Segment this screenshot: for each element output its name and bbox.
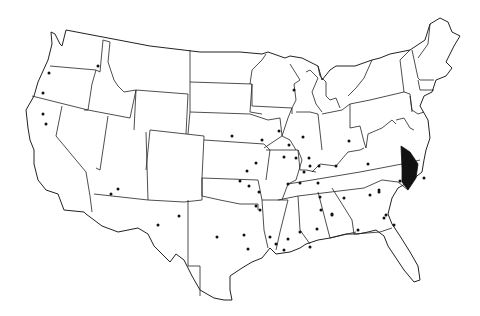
location-dot (243, 234, 246, 237)
location-dot (287, 183, 290, 186)
location-dot (385, 214, 388, 217)
location-dot (287, 238, 290, 241)
location-dot (308, 157, 311, 160)
location-dot (295, 157, 298, 160)
location-dot (318, 165, 321, 168)
location-dot (42, 92, 45, 95)
us-map-svg (0, 0, 480, 316)
location-dot (393, 224, 396, 227)
location-dot (309, 165, 312, 168)
location-dot (178, 215, 181, 218)
location-dot (335, 165, 338, 168)
location-dot (255, 205, 258, 208)
location-dot (383, 217, 386, 220)
location-dot (399, 180, 402, 183)
location-dot (48, 72, 51, 75)
location-dot (247, 248, 250, 251)
location-dot (248, 185, 251, 188)
location-dot (299, 231, 302, 234)
location-dot (283, 249, 286, 252)
location-dot (331, 213, 334, 216)
location-dot (320, 209, 323, 212)
location-dot (302, 136, 305, 139)
location-dot (367, 163, 370, 166)
location-dot (348, 140, 351, 143)
location-dot (278, 130, 281, 133)
location-dot (269, 236, 272, 239)
location-dot (317, 182, 320, 185)
location-dot (319, 196, 322, 199)
location-dot (239, 180, 242, 183)
location-dot (246, 170, 249, 173)
location-dot (157, 224, 160, 227)
location-dot (275, 243, 278, 246)
highlighted-region (401, 146, 418, 190)
location-dot (288, 144, 291, 147)
location-dot (378, 189, 381, 192)
location-dot (255, 162, 258, 165)
location-dot (343, 197, 346, 200)
location-dot (97, 65, 100, 68)
location-dot (110, 193, 113, 196)
location-dot (293, 89, 296, 92)
state-borders (32, 24, 434, 296)
location-dot (261, 139, 264, 142)
location-dot (303, 171, 306, 174)
location-dot (117, 188, 120, 191)
location-dot (42, 113, 45, 116)
location-dot (423, 177, 426, 180)
location-dot (369, 194, 372, 197)
location-dot (309, 246, 312, 249)
location-dot (316, 228, 319, 231)
location-dot (357, 229, 360, 232)
us-map (0, 0, 480, 316)
us-outline (26, 18, 460, 300)
location-dot (283, 156, 286, 159)
location-dot (45, 123, 48, 126)
location-dot (299, 182, 302, 185)
location-dot (259, 209, 262, 212)
location-dot (258, 191, 261, 194)
location-dot (231, 135, 234, 138)
location-dot (216, 236, 219, 239)
